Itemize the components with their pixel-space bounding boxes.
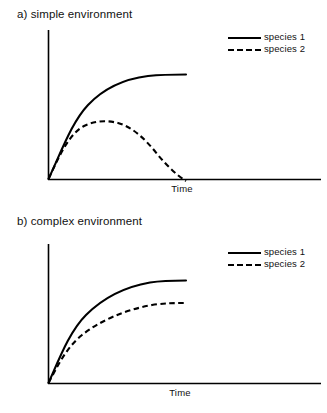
panel-simple-environment: a) simple environment species 1 species … bbox=[0, 0, 327, 207]
legend-label-species-2: species 2 bbox=[264, 43, 305, 54]
figure-two-panel-species-growth: a) simple environment species 1 species … bbox=[0, 0, 327, 413]
legend-item-species-2: species 2 bbox=[228, 259, 327, 270]
legend-label-species-1: species 1 bbox=[264, 31, 305, 42]
panel-complex-environment: b) complex environment species 1 species… bbox=[0, 207, 327, 413]
legend-item-species-1: species 1 bbox=[228, 32, 327, 43]
panel-b-series-species-2 bbox=[49, 303, 187, 383]
legend-item-species-1: species 1 bbox=[228, 247, 327, 258]
legend-label-species-2: species 2 bbox=[264, 258, 305, 269]
legend-label-species-1: species 1 bbox=[264, 246, 305, 257]
panel-b-series-species-1 bbox=[49, 281, 187, 384]
legend-line-dashed-icon bbox=[228, 49, 261, 51]
panel-b-plot bbox=[0, 207, 327, 413]
panel-a-x-axis-label: Time bbox=[152, 183, 212, 194]
legend-line-solid-icon bbox=[228, 37, 261, 39]
legend-line-dashed-icon bbox=[228, 264, 261, 266]
legend-line-solid-icon bbox=[228, 252, 261, 254]
panel-a-series-species-2 bbox=[49, 121, 187, 181]
panel-b-x-axis-label: Time bbox=[150, 387, 210, 398]
legend-item-species-2: species 2 bbox=[228, 44, 327, 55]
panel-b-legend: species 1 species 2 bbox=[228, 247, 327, 271]
panel-a-legend: species 1 species 2 bbox=[228, 32, 327, 56]
